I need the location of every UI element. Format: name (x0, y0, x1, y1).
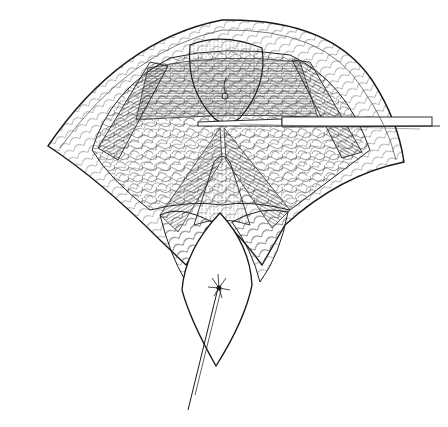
illustration-canvas (0, 0, 448, 427)
surgical-illustration (0, 0, 448, 427)
